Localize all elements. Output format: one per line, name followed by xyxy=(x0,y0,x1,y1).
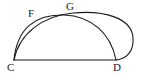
vertex-label-c: C xyxy=(7,62,14,73)
geometry-figure: F G C D xyxy=(0,0,146,77)
vertex-label-g: G xyxy=(66,1,74,12)
vertex-label-d: D xyxy=(113,62,121,73)
outer-arc-cfgd xyxy=(14,12,133,60)
vertex-label-f: F xyxy=(28,8,34,19)
inner-arc-cgd xyxy=(14,15,116,60)
